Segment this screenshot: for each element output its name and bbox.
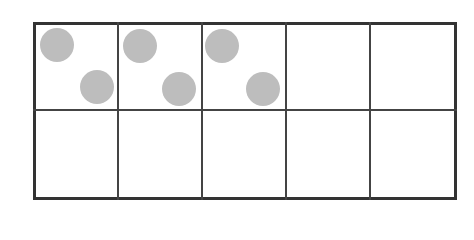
column-divider-1 [117, 22, 119, 200]
row-divider [33, 109, 457, 111]
counter-dot-5 [205, 29, 239, 63]
frame-border [33, 22, 457, 200]
column-divider-3 [285, 22, 287, 200]
counter-dot-2 [80, 70, 114, 104]
column-divider-2 [201, 22, 203, 200]
column-divider-4 [369, 22, 371, 200]
counter-dot-3 [123, 29, 157, 63]
counter-dot-4 [162, 72, 196, 106]
counter-dot-6 [246, 72, 280, 106]
counter-dot-1 [40, 28, 74, 62]
